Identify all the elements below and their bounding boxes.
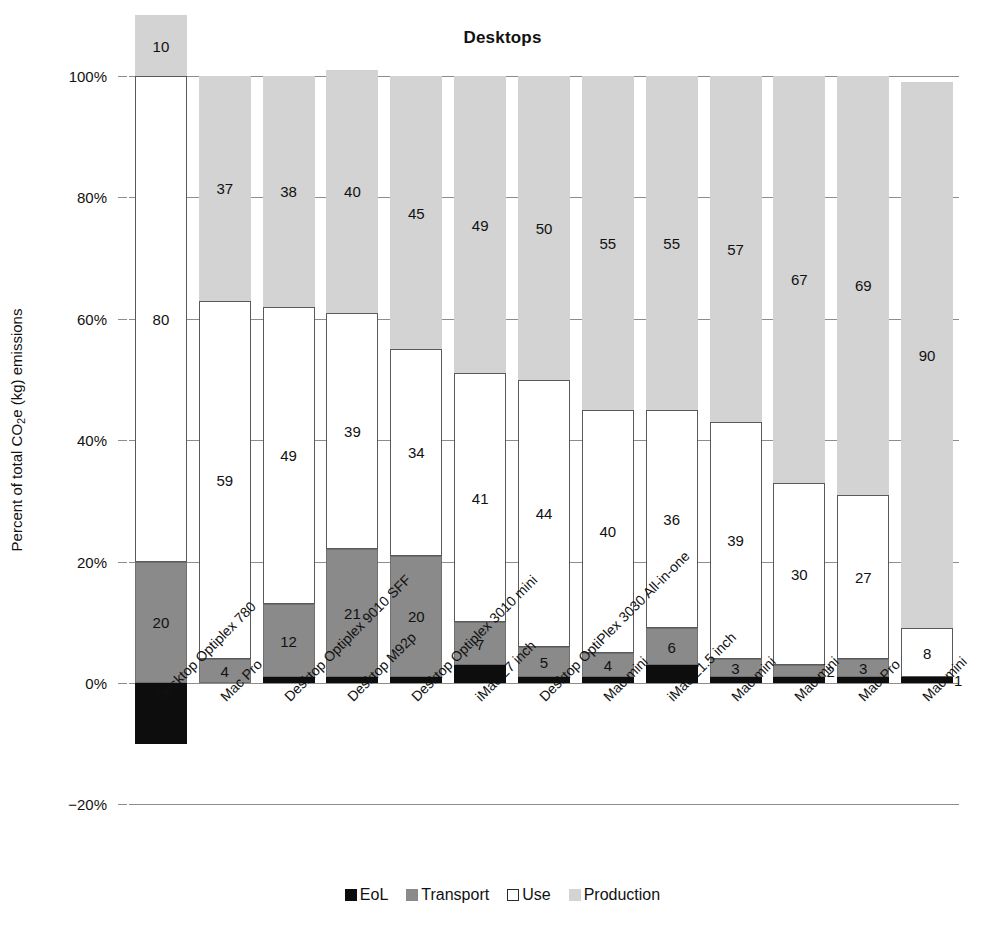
- legend-item-production[interactable]: Production: [569, 886, 661, 904]
- x-axis-label: Mac mini: [600, 653, 651, 704]
- legend-label: Use: [522, 886, 550, 903]
- x-axis-label: Desktop Optiplex 3010 mini: [408, 572, 540, 704]
- legend-swatch-eol-icon: [345, 889, 357, 901]
- legend-swatch-transport-icon: [406, 889, 418, 901]
- legend-item-transport[interactable]: Transport: [406, 886, 489, 904]
- x-axis-label: iMac 27 inch: [472, 637, 539, 704]
- legend-item-use[interactable]: Use: [507, 886, 550, 904]
- legend-swatch-production-icon: [569, 889, 581, 901]
- x-axis-label: Mac mini: [791, 653, 842, 704]
- legend-label: Production: [584, 886, 661, 903]
- x-axis-label: Mac Pro: [217, 656, 265, 704]
- x-axis-label: Mac mini: [919, 653, 970, 704]
- x-axis-category-labels: Desktop Optiplex 780Mac ProDesktop Optip…: [0, 0, 1005, 945]
- x-axis-label: Desktop Optiplex 9010 SFF: [281, 571, 414, 704]
- x-axis-label: Mac mini: [728, 653, 779, 704]
- legend-item-eol[interactable]: EoL: [345, 886, 388, 904]
- legend-label: Transport: [421, 886, 489, 903]
- legend-swatch-use-icon: [507, 889, 519, 901]
- x-axis-label: Mac Pro: [855, 656, 903, 704]
- legend-label: EoL: [360, 886, 388, 903]
- chart-legend: EoLTransportUseProduction: [0, 886, 1005, 904]
